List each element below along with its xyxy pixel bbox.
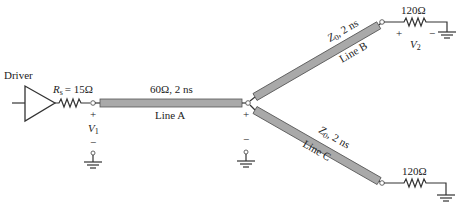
driver-buffer-icon <box>12 86 55 121</box>
load-b-value: 120Ω <box>401 4 426 16</box>
ground-icon-load-b <box>438 32 456 38</box>
source-resistor-label: Rs= 15Ω <box>52 83 93 97</box>
v2-label: V2 <box>410 38 421 52</box>
driver-label: Driver <box>4 69 33 81</box>
v2-plus-sign: + <box>396 27 402 39</box>
junction-minus-sign: − <box>243 133 249 145</box>
ground-icon-v1 <box>84 151 102 168</box>
junction-node <box>246 101 251 106</box>
v1-label: V1 <box>88 122 99 136</box>
load-c-value: 120Ω <box>402 165 427 177</box>
load-resistor-c-icon <box>384 179 446 195</box>
load-resistor-b-icon <box>384 18 447 32</box>
line-a-name: Line A <box>155 109 185 121</box>
v1-plus-sign: + <box>90 108 96 120</box>
v1-minus-sign: − <box>90 136 96 148</box>
line-a-params: 60Ω, 2 ns <box>150 83 193 95</box>
node-v3 <box>380 181 385 186</box>
ground-icon-load-c <box>437 195 455 201</box>
circuit-diagram: Driver Rs= 15Ω + V1 − 60Ω, 2 ns Line A +… <box>0 0 470 211</box>
transmission-line-b <box>253 22 381 101</box>
transmission-line-a <box>100 99 242 107</box>
v2-minus-sign: − <box>429 27 435 39</box>
source-resistor-icon <box>55 99 90 107</box>
node-v1 <box>91 101 96 106</box>
junction-plus-sign: + <box>243 108 249 120</box>
ground-icon-junction <box>237 150 255 167</box>
node-v2 <box>380 20 385 25</box>
